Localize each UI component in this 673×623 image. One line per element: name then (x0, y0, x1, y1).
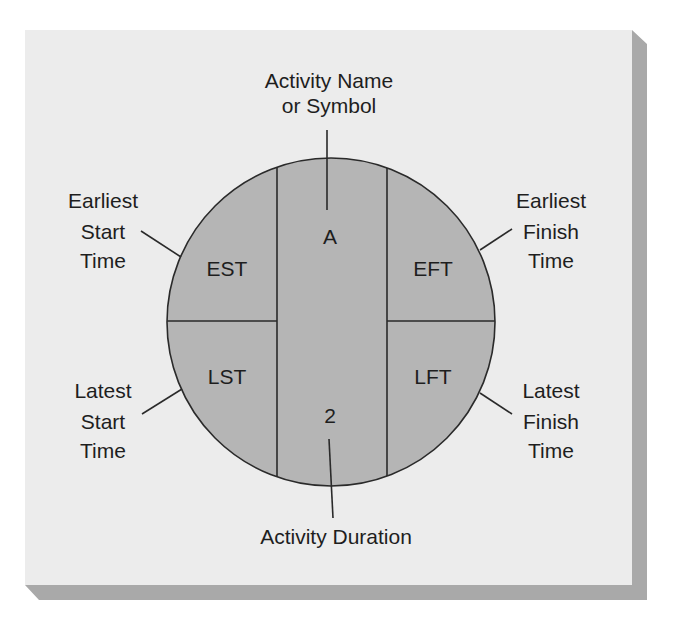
callout-est-line1: Earliest (68, 189, 138, 212)
callout-activity-name-line1: Activity Name (265, 69, 393, 92)
callout-activity-name-line2: or Symbol (282, 94, 377, 117)
diagram-canvas: EST EFT LST LFT A 2 Activity Name or Sym… (0, 0, 673, 623)
callout-eft-line2: Finish (523, 220, 579, 243)
callout-activity-duration: Activity Duration (260, 525, 412, 548)
callout-lft-line1: Latest (522, 379, 579, 402)
callout-lst-line3: Time (80, 439, 126, 462)
callout-lst-line1: Latest (74, 379, 131, 402)
callout-lst-line2: Start (81, 410, 126, 433)
callout-eft-line3: Time (528, 249, 574, 272)
callout-activity-duration-line1: Activity Duration (260, 525, 412, 548)
activity-symbol: A (323, 225, 337, 248)
cell-eft-label: EFT (413, 257, 453, 280)
callout-eft-line1: Earliest (516, 189, 586, 212)
cell-lft-label: LFT (414, 365, 452, 388)
callout-lft-line3: Time (528, 439, 574, 462)
callout-latest-finish-time: Latest Finish Time (522, 379, 579, 462)
cell-est-label: EST (207, 257, 248, 280)
callout-latest-start-time: Latest Start Time (74, 379, 131, 462)
callout-est-line2: Start (81, 220, 126, 243)
callout-lft-line2: Finish (523, 410, 579, 433)
cell-lst-label: LST (208, 365, 247, 388)
callout-est-line3: Time (80, 249, 126, 272)
node-circle (167, 158, 495, 486)
activity-duration-value: 2 (324, 404, 336, 427)
